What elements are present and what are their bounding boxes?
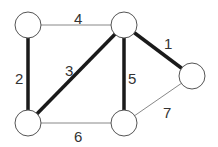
edge-weight-label: 3 (65, 62, 73, 79)
edge-B-D (28, 25, 124, 123)
node-B (111, 12, 137, 38)
node-A (15, 12, 41, 38)
edge-weight-label: 6 (74, 128, 82, 145)
edge-weight-label: 2 (15, 70, 23, 87)
edge-weight-label: 4 (74, 10, 82, 27)
node-E (111, 110, 137, 136)
edge-weight-label: 5 (128, 70, 136, 87)
graph-diagram: 1 2 3 4 5 6 7 (0, 0, 218, 147)
edge-weight-label: 7 (163, 104, 171, 121)
edge-weight-label: 1 (164, 35, 172, 52)
node-C (179, 63, 205, 89)
node-D (15, 110, 41, 136)
